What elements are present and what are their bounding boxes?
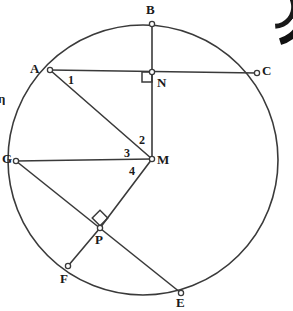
right-angle-markers-group [92,72,152,226]
geometry-figure [0,0,293,311]
point-label-e: E [176,296,185,309]
segment-A-M [50,70,152,159]
angle-label-3: 3 [124,147,130,159]
vertex-dot-b [149,21,154,26]
point-label-m: M [157,153,169,166]
vertex-dot-f [65,263,70,268]
point-label-c: C [262,64,271,77]
angle-label-2: 2 [139,134,145,146]
geometry-diagram-canvas: ABCNMGPFE 1234 η [0,0,293,311]
angle-label-1: 1 [68,74,74,86]
point-label-p: P [95,233,103,246]
segments-group [16,24,257,293]
angle-label-4: 4 [129,165,135,177]
point-label-n: N [157,76,166,89]
cropped-left-character: η [0,92,5,105]
vertex-dot-c [254,70,259,75]
vertex-dot-p [97,225,102,230]
point-label-g: G [2,152,12,165]
point-label-b: B [146,3,155,16]
vertex-dot-n [149,69,154,74]
vertex-dot-m [149,156,154,161]
vertex-dot-g [13,158,18,163]
chord-G-M [16,159,152,161]
vertex-dot-a [47,67,52,72]
point-label-f: F [60,272,68,285]
point-label-a: A [30,62,39,75]
